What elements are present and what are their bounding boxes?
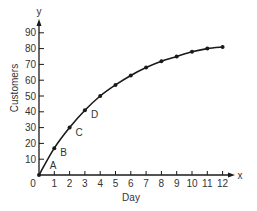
- data-point-marker: [205, 47, 209, 51]
- y-tick-label: 30: [25, 122, 37, 133]
- x-tick-label: 5: [113, 178, 119, 189]
- data-point-marker: [37, 173, 41, 177]
- annotation-a: A: [50, 160, 57, 171]
- customers-line-chart: 123456789101112102030405060708090 ABCD y…: [0, 0, 257, 211]
- x-tick-label: 4: [97, 178, 103, 189]
- annotation-c: C: [76, 127, 83, 138]
- data-point-marker: [159, 59, 163, 63]
- x-tick-label: 10: [186, 178, 198, 189]
- data-point-marker: [52, 146, 56, 150]
- x-tick-label: 2: [67, 178, 73, 189]
- data-point-marker: [114, 83, 118, 87]
- y-tick-label: 10: [25, 154, 37, 165]
- x-axis-letter: x: [238, 170, 243, 181]
- data-point-marker: [129, 73, 133, 77]
- data-point-marker: [221, 45, 225, 49]
- origin-label: 0: [30, 178, 36, 189]
- y-tick-label: 90: [25, 27, 37, 38]
- y-axis-letter: y: [37, 6, 42, 17]
- data-point-marker: [68, 126, 72, 130]
- data-point-marker: [144, 66, 148, 70]
- y-axis-title: Customers: [9, 64, 20, 112]
- y-axis-arrow-icon: [37, 19, 42, 26]
- x-tick-label: 12: [217, 178, 229, 189]
- x-tick-label: 7: [143, 178, 149, 189]
- data-point-marker: [175, 55, 179, 59]
- y-tick-label: 40: [25, 106, 37, 117]
- x-tick-label: 6: [128, 178, 134, 189]
- y-tick-label: 60: [25, 75, 37, 86]
- x-axis-title: Day: [122, 192, 140, 203]
- y-tick-label: 50: [25, 91, 37, 102]
- x-tick-label: 3: [82, 178, 88, 189]
- x-tick-label: 1: [52, 178, 58, 189]
- y-tick-label: 20: [25, 138, 37, 149]
- annotation-d: D: [91, 109, 98, 120]
- y-tick-label: 70: [25, 59, 37, 70]
- x-tick-label: 9: [174, 178, 180, 189]
- annotation-b: B: [60, 147, 67, 158]
- data-point-marker: [98, 94, 102, 98]
- data-point-marker: [83, 108, 87, 112]
- y-tick-label: 80: [25, 43, 37, 54]
- point-annotations: ABCD: [50, 109, 98, 171]
- data-point-marker: [190, 50, 194, 54]
- x-axis-arrow-icon: [228, 173, 235, 178]
- x-tick-label: 11: [202, 178, 213, 189]
- x-tick-label: 8: [159, 178, 165, 189]
